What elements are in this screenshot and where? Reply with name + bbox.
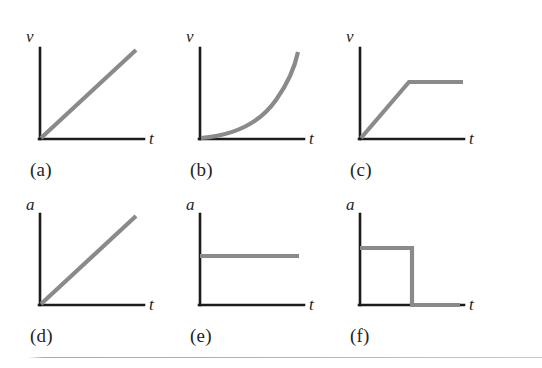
panel-e-y-axis-label: a <box>186 196 195 213</box>
panel-d: a t (d) <box>16 190 176 355</box>
panel-c-caption: (c) <box>350 159 372 181</box>
panel-d-curve <box>41 216 136 304</box>
panel-b-caption: (b) <box>190 159 213 181</box>
panel-b-y-axis-label: v <box>186 28 194 45</box>
panel-c-plot: v t <box>336 24 496 154</box>
panel-c-curve <box>361 82 463 138</box>
panel-c: v t (c) <box>336 24 496 189</box>
panel-a-y-axis-label: v <box>26 28 34 45</box>
panel-e: a t (e) <box>176 190 336 355</box>
panel-a: v t (a) <box>16 24 176 189</box>
panel-a-caption: (a) <box>30 159 52 181</box>
panel-d-caption: (d) <box>30 325 53 347</box>
panel-d-plot: a t <box>16 190 176 320</box>
panel-f: a t (f) <box>336 190 496 355</box>
panel-b: v t (b) <box>176 24 336 189</box>
panel-c-y-axis-label: v <box>346 28 354 45</box>
panel-a-x-axis-label: t <box>149 130 174 156</box>
panel-b-plot: v t <box>176 24 336 154</box>
panel-f-curve <box>360 248 460 305</box>
panel-e-x-axis-label: t <box>309 296 334 322</box>
panel-e-plot: a t <box>176 190 336 320</box>
panel-a-plot: v t <box>16 24 176 154</box>
panel-a-curve <box>41 50 136 138</box>
physics-graphs-figure: v t (a) v t (b) v t (c) <box>0 0 542 368</box>
panel-f-plot: a t <box>336 190 496 320</box>
panel-f-y-axis-label: a <box>346 196 355 213</box>
footer-divider <box>28 357 542 358</box>
panel-f-caption: (f) <box>350 325 370 347</box>
panel-e-caption: (e) <box>190 325 212 347</box>
panel-b-curve <box>201 52 298 138</box>
panel-d-x-axis-label: t <box>149 296 174 322</box>
panel-c-x-axis-label: t <box>469 130 494 156</box>
panel-f-x-axis-label: t <box>469 296 494 322</box>
panel-d-y-axis-label: a <box>26 196 35 213</box>
panel-b-x-axis-label: t <box>309 130 334 156</box>
